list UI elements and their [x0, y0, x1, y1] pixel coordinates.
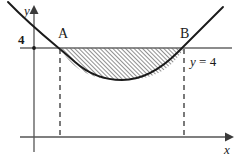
line-equation-value: 4 — [210, 54, 217, 69]
x-axis-arrowhead — [225, 133, 234, 142]
y-tick-4-marker — [32, 46, 36, 50]
point-label-a: A — [58, 27, 68, 41]
figure-canvas — [0, 0, 238, 162]
y-axis-label: y — [24, 4, 30, 17]
y-axis-arrowhead — [30, 5, 39, 14]
line-equation-label: y = 4 — [190, 55, 216, 68]
x-axis-label: x — [224, 143, 230, 156]
line-equation-operator: = — [199, 54, 206, 69]
math-figure: y x 4 A B y = 4 — [0, 0, 238, 162]
line-equation-variable: y — [190, 54, 196, 69]
x-axis — [20, 133, 234, 142]
point-label-b: B — [180, 27, 189, 41]
y-tick-label-4: 4 — [18, 33, 25, 46]
